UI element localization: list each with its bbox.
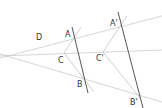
line-AprimeBprime: [118, 12, 143, 108]
ray-through-A: [0, 16, 162, 58]
ray-through-C: [0, 50, 162, 56]
label-B-prime: B': [130, 98, 138, 107]
label-A: A: [65, 30, 71, 39]
label-C: C: [58, 56, 64, 65]
homothety-diagram: D A C B A' C' B': [0, 0, 162, 108]
label-D: D: [36, 33, 42, 42]
label-B: B: [77, 80, 83, 89]
label-C-prime: C': [96, 54, 104, 63]
label-A-prime: A': [110, 19, 118, 28]
